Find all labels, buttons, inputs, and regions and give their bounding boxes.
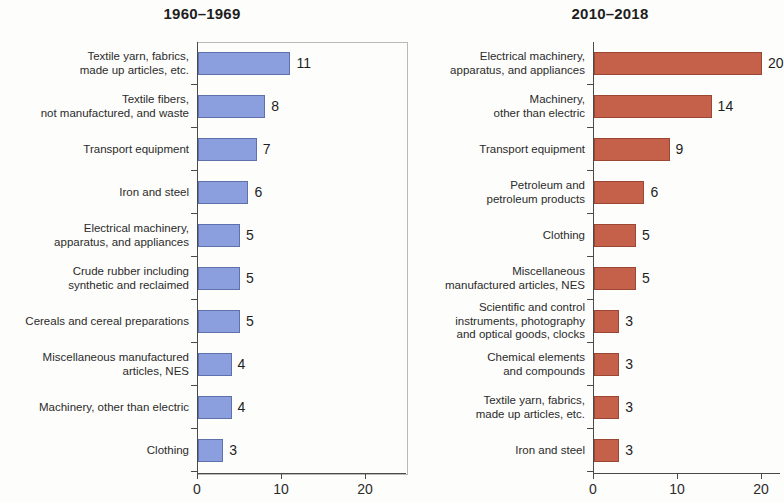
y-axis-tick	[587, 170, 593, 171]
category-label: Iron and steel	[396, 444, 593, 458]
x-axis-tick-label: 20	[741, 481, 781, 497]
category-label: Chemical elements and compounds	[396, 351, 593, 378]
bar-value-label: 3	[229, 439, 237, 462]
bar-value-label: 4	[238, 396, 246, 419]
bar	[594, 52, 762, 75]
category-label: Clothing	[0, 444, 197, 458]
category-label: Petroleum and petroleum products	[396, 179, 593, 206]
bar	[594, 95, 712, 118]
bar	[594, 353, 619, 376]
x-axis-right	[593, 473, 780, 474]
category-label: Crude rubber including synthetic and rec…	[0, 265, 197, 292]
bar	[198, 267, 240, 290]
category-label: Scientific and control instruments, phot…	[396, 301, 593, 342]
x-axis-tick-label: 0	[177, 481, 217, 497]
y-axis-tick	[587, 299, 593, 300]
bar	[198, 52, 290, 75]
y-axis-tick	[191, 127, 197, 128]
bar-value-label: 3	[625, 396, 633, 419]
bar	[594, 396, 619, 419]
x-axis-tick	[593, 473, 594, 479]
y-axis-tick	[587, 213, 593, 214]
bar	[198, 95, 265, 118]
x-axis-tick	[761, 473, 762, 479]
bar-value-label: 8	[271, 95, 279, 118]
category-label: Electrical machinery, apparatus, and app…	[396, 50, 593, 77]
category-label: Miscellaneous manufactured articles, NES	[396, 265, 593, 292]
bar-value-label: 6	[254, 181, 262, 204]
bar	[594, 224, 636, 247]
bar	[198, 224, 240, 247]
bar	[198, 310, 240, 333]
bar	[594, 181, 644, 204]
y-axis-tick	[191, 385, 197, 386]
bar-value-label: 9	[676, 138, 684, 161]
x-axis-tick-label: 0	[573, 481, 613, 497]
chart-panel-2010-2018: 2010–2018 Electrical machinery, apparatu…	[396, 0, 784, 502]
y-axis-tick	[191, 428, 197, 429]
category-label: Textile yarn, fabrics, made up articles,…	[396, 394, 593, 421]
category-label: Machinery, other than electric	[396, 93, 593, 120]
y-axis-tick	[191, 342, 197, 343]
y-axis-tick	[587, 127, 593, 128]
bar	[198, 396, 232, 419]
category-label: Cereals and cereal preparations	[0, 315, 197, 329]
x-axis-tick	[281, 473, 282, 479]
category-label: Machinery, other than electric	[0, 401, 197, 415]
y-axis-tick	[191, 299, 197, 300]
x-axis-tick-label: 10	[657, 481, 697, 497]
bar	[198, 138, 257, 161]
y-axis-tick	[587, 385, 593, 386]
y-axis-tick	[191, 471, 197, 472]
y-axis-tick	[587, 342, 593, 343]
y-axis-tick	[191, 256, 197, 257]
bar-value-label: 11	[296, 52, 311, 75]
bar-value-label: 5	[642, 224, 650, 247]
y-axis-tick	[191, 170, 197, 171]
figure-root: 1960–1969 Textile yarn, fabrics, made up…	[0, 0, 784, 502]
category-label: Electrical machinery, apparatus, and app…	[0, 222, 197, 249]
bar	[594, 439, 619, 462]
category-label: Iron and steel	[0, 186, 197, 200]
y-axis-tick	[587, 84, 593, 85]
bar	[198, 439, 223, 462]
x-axis-tick	[677, 473, 678, 479]
bar-value-label: 5	[642, 267, 650, 290]
x-axis-tick	[365, 473, 366, 479]
bar	[594, 310, 619, 333]
bar	[594, 267, 636, 290]
y-axis-tick	[587, 471, 593, 472]
bar-value-label: 20	[768, 52, 784, 75]
bar-value-label: 6	[650, 181, 658, 204]
y-axis-tick	[587, 428, 593, 429]
category-label: Textile yarn, fabrics, made up articles,…	[0, 50, 197, 77]
x-axis-tick-label: 20	[345, 481, 385, 497]
x-axis-tick-label: 10	[261, 481, 301, 497]
chart-title-right: 2010–2018	[416, 5, 784, 22]
category-label: Transport equipment	[396, 143, 593, 157]
x-axis-tick	[197, 473, 198, 479]
category-label: Clothing	[396, 229, 593, 243]
bar	[198, 181, 248, 204]
bar-value-label: 14	[718, 95, 734, 118]
y-axis-tick	[191, 84, 197, 85]
category-label: Transport equipment	[0, 143, 197, 157]
y-axis-tick	[191, 213, 197, 214]
bar-value-label: 5	[246, 267, 254, 290]
category-label: Miscellaneous manufactured articles, NES	[0, 351, 197, 378]
x-axis-left	[197, 473, 406, 474]
bar-value-label: 4	[238, 353, 246, 376]
bar	[198, 353, 232, 376]
bar-value-label: 3	[625, 310, 633, 333]
category-label: Textile fibers, not manufactured, and wa…	[0, 93, 197, 120]
bar-value-label: 3	[625, 439, 633, 462]
bar-value-label: 5	[246, 224, 254, 247]
bar	[594, 138, 670, 161]
chart-panel-1960-1969: 1960–1969 Textile yarn, fabrics, made up…	[0, 0, 412, 502]
bar-value-label: 3	[625, 353, 633, 376]
bar-value-label: 7	[263, 138, 271, 161]
y-axis-tick	[587, 256, 593, 257]
chart-title-left: 1960–1969	[0, 5, 408, 22]
bar-value-label: 5	[246, 310, 254, 333]
